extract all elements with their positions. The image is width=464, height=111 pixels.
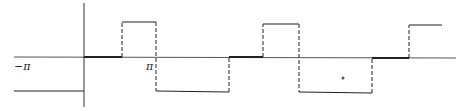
label-neg-pi: −π <box>14 60 31 73</box>
label-pi: π <box>145 60 154 73</box>
function-plot: −π π <box>0 0 464 111</box>
segment-bottom <box>156 91 229 92</box>
dot-mark <box>342 77 345 80</box>
segment-bottom <box>299 92 372 93</box>
